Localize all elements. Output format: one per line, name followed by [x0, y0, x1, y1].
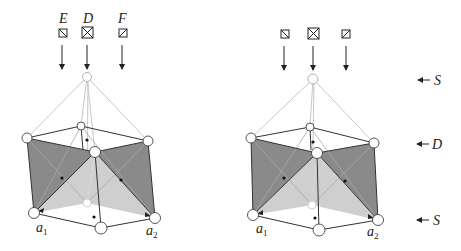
layer-labels: S D S: [417, 73, 442, 228]
svg-text:S: S: [434, 73, 441, 88]
label-D: D: [82, 11, 93, 26]
basis-a1-label: a1: [36, 220, 48, 237]
layer-label-middle: D: [417, 137, 442, 152]
label-F: F: [117, 11, 127, 26]
left-structure: E D F: [22, 11, 161, 240]
basis-a1-label: a1: [256, 221, 268, 238]
svg-text:S: S: [433, 213, 440, 228]
box-slash-icon: [342, 30, 350, 38]
box-backslash-icon: [281, 30, 289, 38]
svg-text:D: D: [431, 137, 442, 152]
box-backslash-icon: [59, 29, 67, 37]
layer-label-bottom: S: [417, 213, 440, 228]
basis-a2-label: a2: [367, 224, 379, 241]
box-slash-icon: [119, 29, 127, 37]
box-cross-icon: [82, 27, 93, 38]
basis-a2-label: a2: [146, 223, 158, 240]
right-structure: a1 a2: [246, 28, 384, 241]
diagram-canvas: E D F: [0, 0, 461, 251]
box-cross-icon: [308, 28, 319, 39]
label-E: E: [58, 11, 68, 26]
layer-label-top: S: [418, 73, 441, 88]
